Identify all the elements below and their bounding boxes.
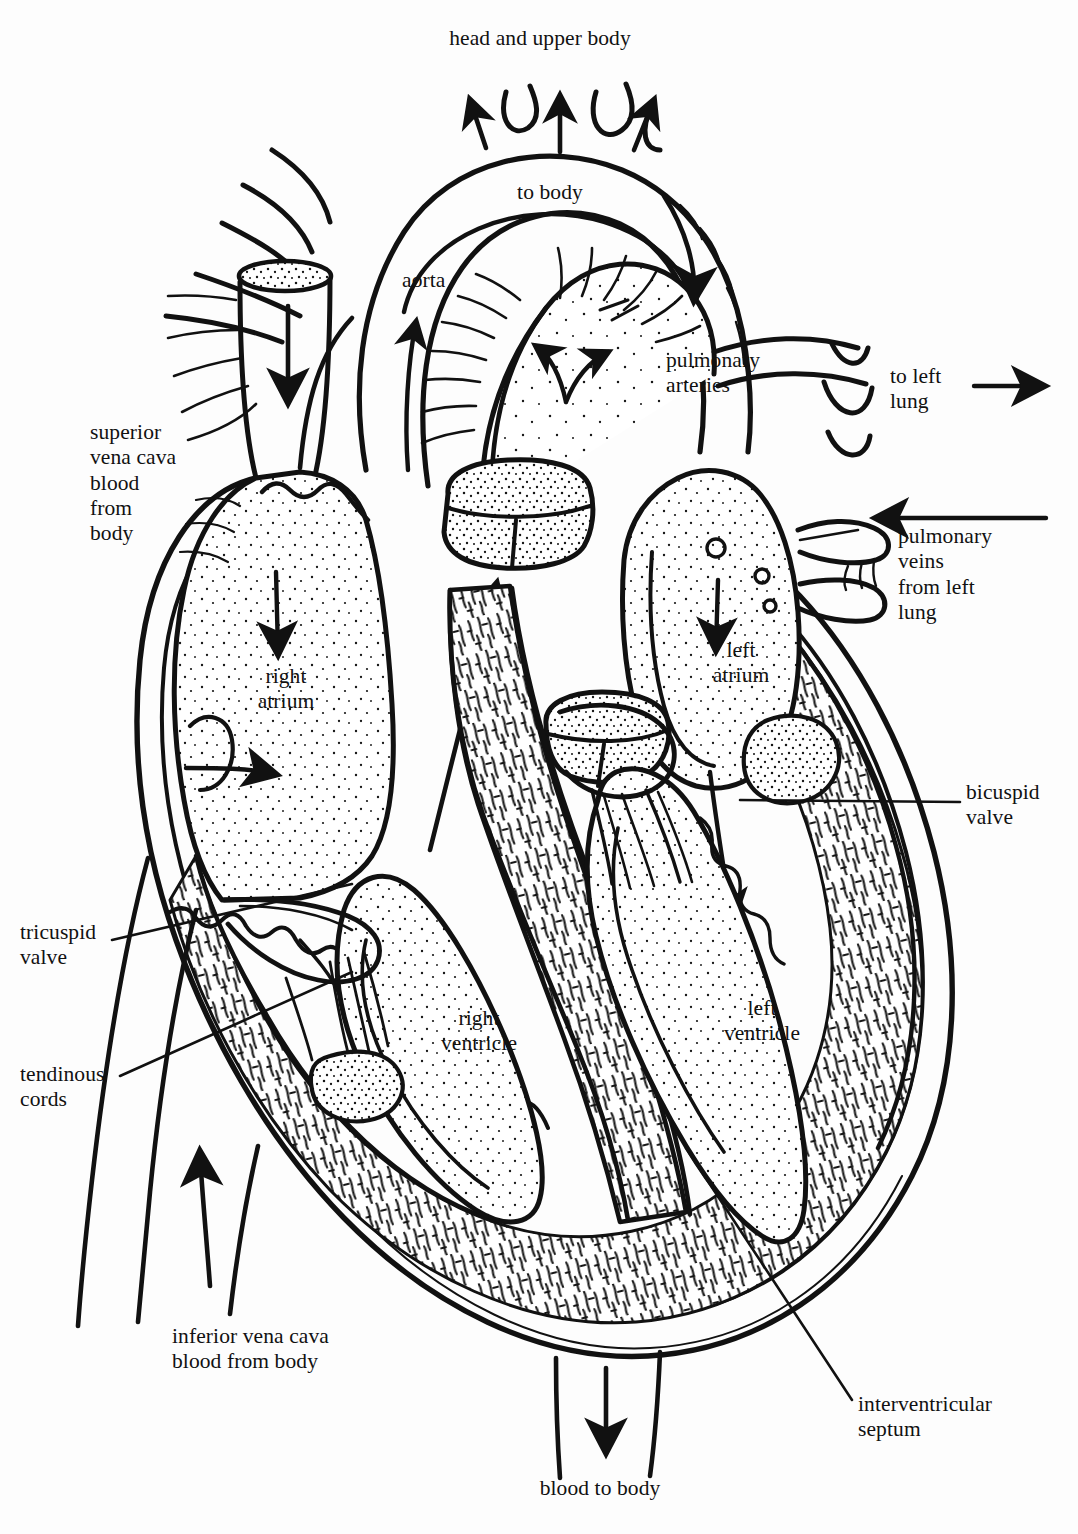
label-interventricular-septum: interventricular septum xyxy=(858,1392,992,1443)
label-to-body: to body xyxy=(470,180,630,205)
label-right-ventricle: right ventricle xyxy=(408,1006,550,1057)
label-inferior-vena-cava: inferior vena cava blood from body xyxy=(172,1324,329,1375)
aorta-up-arrow xyxy=(406,322,416,470)
arrow-to-head-3 xyxy=(634,100,654,150)
label-left-ventricle: left ventricle xyxy=(700,996,824,1047)
papillary-muscle-right xyxy=(311,1052,403,1122)
label-right-atrium: right atrium xyxy=(222,664,350,715)
label-to-left-lung: to left lung xyxy=(890,364,941,415)
label-pulmonary-arteries: pulmonary arteries xyxy=(666,348,760,399)
label-aorta: aorta xyxy=(402,268,445,293)
pulmonary-branch-squiggles-right xyxy=(824,344,872,455)
arrow-to-head-1 xyxy=(470,100,486,148)
label-pulmonary-veins: pulmonary veins from left lung xyxy=(898,524,992,625)
label-tendinous-cords: tendinous cords xyxy=(20,1062,105,1113)
label-head-and-upper-body: head and upper body xyxy=(390,26,690,51)
heart-diagram-figure: head and upper body to body aorta pulmon… xyxy=(0,0,1078,1534)
label-blood-to-body: blood to body xyxy=(480,1476,720,1501)
ra-down-arrow xyxy=(276,572,278,652)
ivc-up-arrow xyxy=(200,1154,210,1286)
label-tricuspid-valve: tricuspid valve xyxy=(20,920,96,971)
leader-pulmonary-veins xyxy=(800,530,858,540)
papillary-muscle-left xyxy=(744,716,839,803)
label-left-atrium: left atrium xyxy=(686,638,796,689)
label-bicuspid-valve: bicuspid valve xyxy=(966,780,1040,831)
label-superior-vena-cava: superior vena cava blood from body xyxy=(90,420,176,547)
heart-illustration xyxy=(0,0,1078,1534)
